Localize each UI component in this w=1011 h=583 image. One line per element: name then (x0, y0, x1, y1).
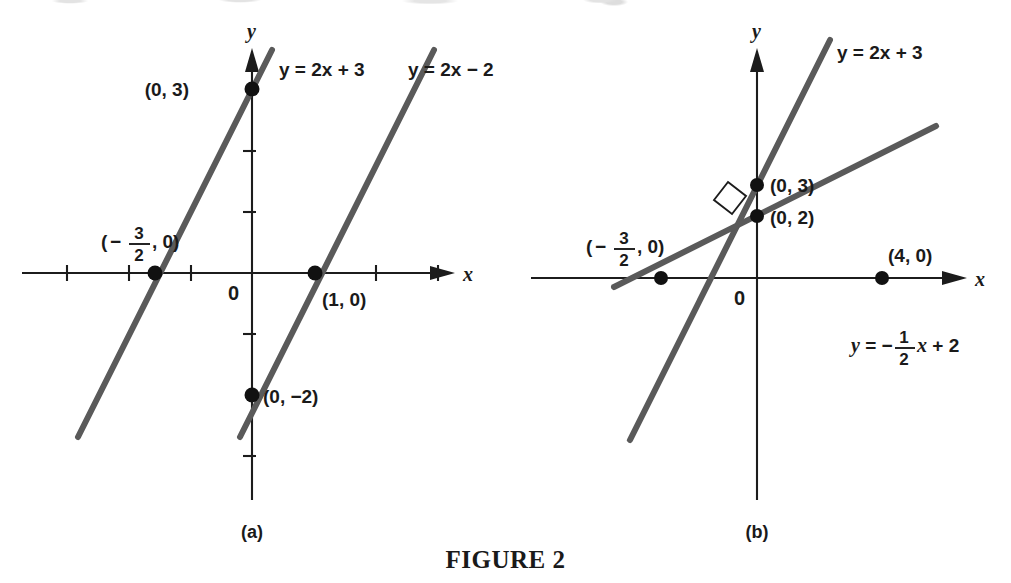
point-label-1-0-a: (1, 0) (322, 289, 366, 310)
point-neg32-0-a (148, 266, 163, 281)
graph-line-2x-minus-2-a (240, 50, 434, 437)
y-axis-label-a: y (245, 20, 256, 43)
fraction-numerator-b: 3 (619, 229, 628, 248)
point-label-0-3-b: (0, 3) (770, 175, 814, 196)
y-axis-arrowhead-a (245, 48, 259, 72)
svg-text:y = 2x + 3: y = 2x + 3 (279, 59, 365, 80)
point-label-4-0-b: (4, 0) (888, 245, 932, 266)
svg-text:, 0): , 0) (637, 236, 664, 257)
svg-text:(: ( (586, 236, 593, 257)
fraction-denominator-a: 2 (134, 246, 143, 265)
point-1-0-a (308, 266, 323, 281)
svg-text:y = −: y = − (849, 334, 893, 357)
svg-text:y = 2x + 3: y = 2x + 3 (837, 42, 923, 63)
equation-label-2x-minus-2-a: y = 2x − 2 (408, 59, 494, 80)
x-axis-arrowhead-b (942, 271, 967, 285)
panel-a-plot: y x 0 (0, 3) (1, 0) (0, −2) ( − 3 2 , 0)… (0, 0, 506, 583)
svg-text:y = 2x − 2: y = 2x − 2 (408, 59, 494, 80)
fraction-numerator-a: 3 (134, 224, 143, 243)
equation-fraction-denominator-b: 2 (899, 350, 908, 369)
svg-text:−: − (595, 236, 606, 257)
point-label-neg32-0-b: ( − 3 2 , 0) (586, 229, 664, 270)
figure-2: y x 0 (0, 3) (1, 0) (0, −2) ( − 3 2 , 0)… (0, 0, 1011, 583)
point-0-3-b (750, 178, 764, 192)
panel-a: y x 0 (0, 3) (1, 0) (0, −2) ( − 3 2 , 0)… (0, 0, 506, 583)
x-axis-arrowhead-a (430, 266, 455, 280)
x-axis-label-a: x (462, 263, 473, 285)
point-label-0-2-b: (0, 2) (770, 207, 814, 228)
panel-caption-a: (a) (241, 522, 263, 542)
equation-fraction-numerator-b: 1 (899, 328, 908, 347)
point-label-0-3-a: (0, 3) (145, 79, 189, 100)
svg-text:−: − (110, 231, 121, 252)
x-axis-label-b: x (974, 268, 985, 290)
equation-label-2x-plus-3-a: y = 2x + 3 (279, 59, 365, 80)
point-4-0-b (875, 271, 889, 285)
svg-text:(: ( (101, 231, 108, 252)
point-label-0-neg2-a: (0, −2) (263, 386, 318, 407)
point-0-neg2-a (245, 388, 260, 403)
point-neg32-0-b (654, 271, 668, 285)
panel-b-plot: y x 0 (0, 3) (0, 2) (4, 0) ( − 3 2 , 0) … (506, 0, 1011, 583)
point-0-3-a (245, 82, 260, 97)
svg-text:x + 2: x + 2 (916, 334, 959, 356)
equation-label-neg-half-x-plus-2-b: y = − 1 2 x + 2 (849, 328, 959, 369)
equation-label-2x-plus-3-b: y = 2x + 3 (837, 42, 923, 63)
svg-text:, 0): , 0) (152, 231, 179, 252)
point-0-2-b (750, 209, 764, 223)
figure-caption: FIGURE 2 (0, 546, 1011, 574)
fraction-denominator-b: 2 (619, 251, 628, 270)
panel-b: y x 0 (0, 3) (0, 2) (4, 0) ( − 3 2 , 0) … (506, 0, 1011, 583)
origin-label-a: 0 (228, 282, 239, 304)
panel-caption-b: (b) (746, 522, 769, 542)
right-angle-marker-b (714, 182, 746, 214)
y-axis-label-b: y (750, 20, 761, 43)
y-axis-arrowhead-b (750, 48, 764, 72)
origin-label-b: 0 (734, 287, 745, 309)
